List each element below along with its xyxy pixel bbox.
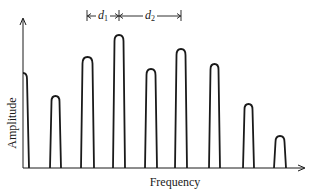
spectral-peak: [81, 57, 94, 168]
spectral-peak: [243, 104, 254, 168]
spectral-peak: [23, 73, 29, 168]
y-axis-label: Amplitude: [5, 97, 19, 148]
spectral-peak: [50, 96, 61, 168]
spectral-peak: [209, 64, 220, 168]
spectral-peak: [145, 69, 157, 168]
d2-label: d2: [145, 8, 155, 23]
x-axis-label: Frequency: [150, 175, 201, 189]
axes: [20, 18, 305, 171]
spectral-peak: [175, 49, 187, 168]
spectral-peak: [113, 35, 125, 168]
d1-label: d1: [98, 8, 108, 23]
peaks: [23, 35, 286, 168]
spectral-peak: [274, 136, 286, 168]
spectrum-diagram: d1 d2 Frequency Amplitude: [0, 0, 311, 195]
